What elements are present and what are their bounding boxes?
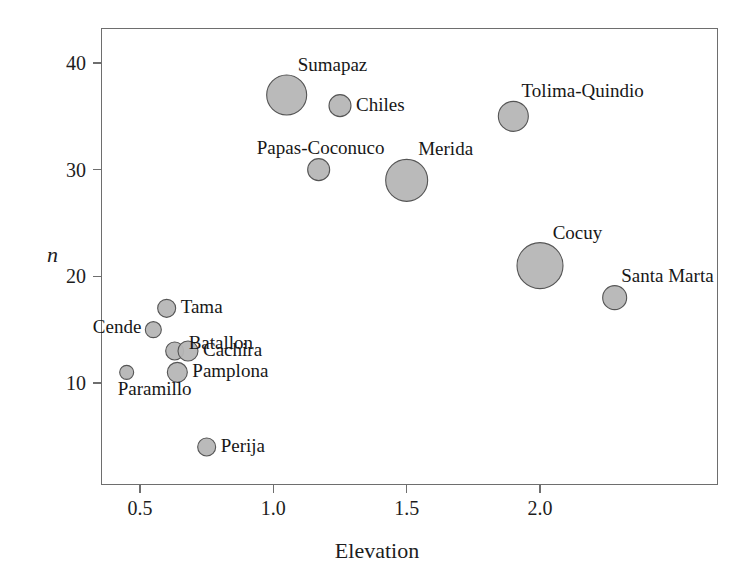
point-label: Cachira (203, 340, 262, 359)
x-tick-mark (406, 485, 407, 493)
point-label: Paramillo (118, 379, 192, 398)
y-tick-label: 20 (66, 265, 86, 288)
point-label: Tolima-Quindio (522, 81, 644, 100)
y-tick-mark (93, 276, 101, 277)
point-label: Sumapaz (298, 55, 368, 74)
x-tick-mark (139, 485, 140, 493)
point-label: Merida (418, 139, 473, 158)
point-label: Chiles (356, 94, 405, 113)
x-tick-mark (273, 485, 274, 493)
y-tick-mark (93, 62, 101, 63)
y-tick-label: 10 (66, 372, 86, 395)
y-tick-mark (93, 169, 101, 170)
x-tick-label: 2.0 (528, 497, 553, 520)
y-tick-mark (93, 382, 101, 383)
x-axis-title: Elevation (0, 538, 754, 564)
x-tick-label: 0.5 (128, 497, 153, 520)
x-tick-mark (539, 485, 540, 493)
y-tick-label: 30 (66, 158, 86, 181)
y-tick-label: 40 (66, 52, 86, 75)
point-label: Cende (93, 316, 142, 335)
point-label: Papas-Coconuco (257, 137, 385, 156)
point-label: Cocuy (553, 222, 603, 241)
chart-figure: 0.51.01.52.0 10203040 SumapazChilesTolim… (0, 0, 754, 583)
x-tick-label: 1.5 (394, 497, 419, 520)
point-label: Tama (181, 297, 223, 316)
point-label: Santa Marta (621, 265, 713, 284)
point-label: Perija (221, 436, 265, 455)
y-axis-title: n (47, 242, 58, 268)
point-label: Pamplona (192, 361, 268, 380)
x-tick-label: 1.0 (261, 497, 286, 520)
